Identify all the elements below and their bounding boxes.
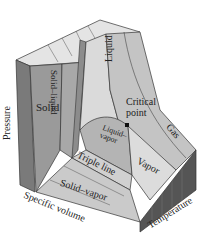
critical-point-marker [125, 123, 129, 127]
critical-point-label: Critical point [126, 96, 176, 118]
pvt-surface-diagram: Solid Solid–liquid Liquid Critical point… [0, 0, 212, 238]
pressure-axis-label: Pressure [2, 106, 12, 140]
solid-liquid-label: Solid–liquid [49, 70, 58, 115]
critical-point-text: Critical point [126, 96, 156, 118]
liquid-label: Liquid [104, 35, 114, 62]
